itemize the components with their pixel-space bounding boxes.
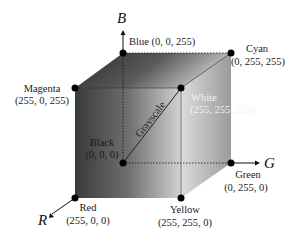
label-black-coords: (0, 0, 0) xyxy=(85,149,119,161)
axis-g-label: G xyxy=(264,155,275,171)
label-red: Red xyxy=(80,202,98,213)
vertex-green xyxy=(228,160,235,167)
label-blue: Blue (0, 0, 255) xyxy=(129,36,196,48)
vertex-white xyxy=(178,85,185,92)
axis-r-label: R xyxy=(37,212,47,228)
label-white-coords: (255, 255, 255) xyxy=(190,104,255,116)
label-green-coords: (0, 255, 0) xyxy=(224,182,268,194)
label-magenta-coords: (255, 0, 255) xyxy=(15,95,70,107)
axis-r xyxy=(52,198,75,214)
axis-g-arrow-icon xyxy=(255,161,260,166)
vertex-yellow xyxy=(178,195,185,202)
label-cyan-coords: (0, 255, 255) xyxy=(231,56,286,68)
label-black: Black xyxy=(90,137,115,148)
vertex-magenta xyxy=(72,85,79,92)
label-cyan: Cyan xyxy=(246,43,269,54)
label-yellow: Yellow xyxy=(170,204,200,215)
rgb-cube-diagram: Grayscale B G R Blue (0, 0, 255) Cyan (0… xyxy=(0,0,307,242)
vertex-black xyxy=(120,160,127,167)
axis-b-arrow-icon xyxy=(121,30,126,35)
label-red-coords: (255, 0, 0) xyxy=(66,215,110,227)
vertex-red xyxy=(72,195,79,202)
axis-b-label: B xyxy=(117,10,126,26)
label-green: Green xyxy=(235,169,261,180)
label-white: White xyxy=(191,92,217,103)
vertex-blue xyxy=(120,50,127,57)
label-yellow-coords: (255, 255, 0) xyxy=(158,217,213,229)
axis-r-arrow-icon xyxy=(49,213,54,218)
label-magenta: Magenta xyxy=(24,83,61,94)
